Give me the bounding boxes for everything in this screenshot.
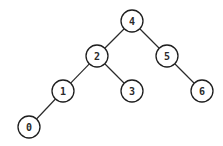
node-label: 3: [129, 86, 135, 97]
edges-layer: [37, 29, 195, 119]
node-label: 5: [164, 51, 170, 62]
tree-node-4: 4: [121, 10, 143, 32]
tree-edge-4-2: [105, 29, 124, 48]
tree-edge-4-5: [140, 29, 159, 48]
node-label: 6: [199, 86, 205, 97]
tree-node-2: 2: [86, 45, 108, 67]
tree-node-1: 1: [52, 80, 74, 102]
tree-node-3: 3: [121, 80, 143, 102]
tree-node-5: 5: [156, 45, 178, 67]
tree-edge-2-3: [105, 64, 124, 83]
node-label: 0: [26, 122, 32, 133]
tree-node-6: 6: [191, 80, 213, 102]
node-label: 4: [129, 16, 135, 27]
tree-edge-1-0: [37, 99, 56, 119]
node-label: 2: [94, 51, 100, 62]
tree-node-0: 0: [18, 116, 40, 138]
binary-tree-diagram: 4251360: [0, 0, 223, 146]
node-label: 1: [60, 86, 66, 97]
tree-edge-5-6: [175, 64, 194, 83]
tree-edge-2-1: [71, 64, 90, 83]
